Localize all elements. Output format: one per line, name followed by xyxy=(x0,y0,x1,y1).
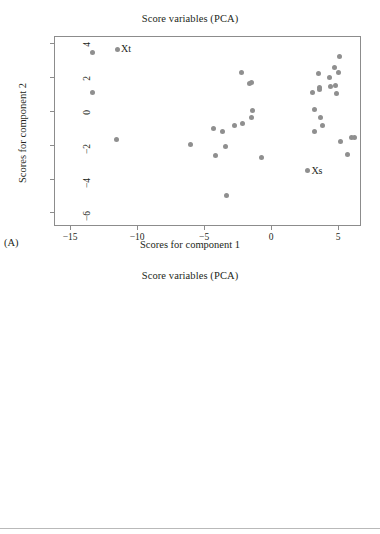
x-tick xyxy=(271,226,272,230)
data-point xyxy=(333,83,338,88)
panel-b: Score variables (PCA) XtXs −6−4−20220−2−… xyxy=(0,262,380,524)
x-tick xyxy=(70,226,71,230)
figure-bottom-rule xyxy=(0,528,380,529)
x-tick xyxy=(204,226,205,230)
x-tick xyxy=(137,226,138,230)
panel-a: Score variables (PCA) XtXs −15−10−505420… xyxy=(0,0,380,268)
panel-a-title: Score variables (PCA) xyxy=(0,13,380,24)
data-point xyxy=(188,142,193,147)
data-point xyxy=(224,193,229,198)
pca-score-figure: Score variables (PCA) XtXs −15−10−505420… xyxy=(0,0,380,534)
data-point xyxy=(259,155,264,160)
y-tick xyxy=(50,212,54,213)
data-point xyxy=(249,115,254,120)
data-point xyxy=(332,65,337,70)
y-tick xyxy=(50,145,54,146)
y-tick xyxy=(50,77,54,78)
data-point xyxy=(250,108,255,113)
panel-a-y-axis-label: Scores for component 2 xyxy=(17,83,28,183)
data-point xyxy=(337,54,342,59)
data-point xyxy=(336,70,341,75)
point-label-xt: Xt xyxy=(121,44,131,54)
data-point xyxy=(239,70,244,75)
data-point xyxy=(115,47,120,52)
panel-a-x-axis-label: Scores for component 1 xyxy=(0,239,380,250)
point-label-xs: Xs xyxy=(311,166,322,176)
panel-a-tag: (A) xyxy=(4,237,19,248)
y-tick xyxy=(50,43,54,44)
data-point xyxy=(338,139,343,144)
x-tick xyxy=(338,226,339,230)
data-point xyxy=(232,123,237,128)
y-tick xyxy=(50,111,54,112)
panel-b-title: Score variables (PCA) xyxy=(0,270,380,281)
data-point xyxy=(312,107,317,112)
data-point xyxy=(310,90,315,95)
data-point xyxy=(318,115,323,120)
y-tick xyxy=(50,179,54,180)
